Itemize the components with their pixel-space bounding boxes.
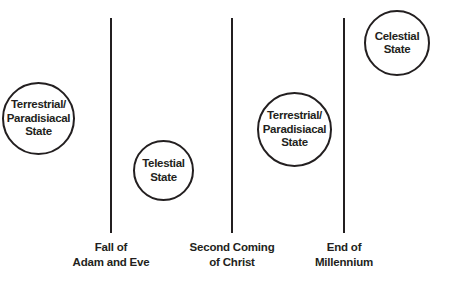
state-label-line: Celestial xyxy=(375,30,420,44)
state-label-line: Paradisiacal xyxy=(263,123,327,137)
state-label-line: State xyxy=(7,125,71,139)
state-circle-terrestrial-paradisiacal-1: Terrestrial/ Paradisiacal State xyxy=(2,82,75,155)
state-label: Terrestrial/ Paradisiacal State xyxy=(263,109,327,150)
divider-line-second-coming xyxy=(231,18,233,233)
state-label-line: Telestial xyxy=(142,157,184,171)
divider-label-end-millennium: End of Millennium xyxy=(274,240,414,270)
state-label: Celestial State xyxy=(375,30,420,57)
state-label-line: Paradisiacal xyxy=(7,112,71,126)
divider-label-line: Millennium xyxy=(274,255,414,270)
state-label-line: State xyxy=(263,136,327,150)
divider-label-fall: Fall of Adam and Eve xyxy=(41,240,181,270)
state-label-line: Terrestrial/ xyxy=(7,98,71,112)
divider-label-line: Adam and Eve xyxy=(41,255,181,270)
state-circle-celestial: Celestial State xyxy=(364,10,430,76)
divider-label-line: Fall of xyxy=(41,240,181,255)
state-circle-telestial: Telestial State xyxy=(133,140,194,201)
state-label: Terrestrial/ Paradisiacal State xyxy=(7,98,71,139)
state-label-line: State xyxy=(142,171,184,185)
divider-label-line: End of xyxy=(274,240,414,255)
divider-line-end-millennium xyxy=(343,18,345,233)
state-label: Telestial State xyxy=(142,157,184,184)
state-label-line: Terrestrial/ xyxy=(263,109,327,123)
state-label-line: State xyxy=(375,43,420,57)
divider-line-fall xyxy=(110,18,112,233)
state-circle-terrestrial-paradisiacal-2: Terrestrial/ Paradisiacal State xyxy=(257,92,332,167)
